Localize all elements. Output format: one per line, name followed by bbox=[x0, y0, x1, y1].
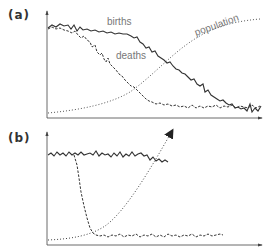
panel-b-deaths-curve bbox=[74, 155, 223, 237]
demographic-transition-diagram: births deaths population bbox=[0, 0, 276, 252]
births-label: births bbox=[107, 16, 131, 27]
panel-b bbox=[47, 131, 262, 245]
panel-b-births-curve bbox=[48, 151, 168, 162]
panel-a: births deaths population bbox=[47, 11, 262, 118]
panel-b-population-arrow bbox=[48, 131, 172, 240]
population-label: population bbox=[193, 12, 240, 38]
panel-a-population-curve bbox=[48, 19, 260, 113]
deaths-label: deaths bbox=[116, 50, 146, 61]
panel-a-deaths-curve bbox=[48, 27, 260, 108]
